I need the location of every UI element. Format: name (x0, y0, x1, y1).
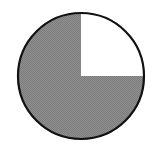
fraction-circle-diagram (0, 0, 159, 145)
